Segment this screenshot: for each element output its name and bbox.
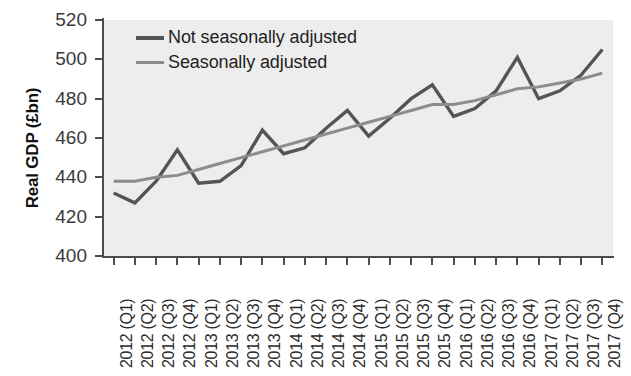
x-tick-label: 2016 (Q2) (479, 299, 497, 368)
y-tick-label: 420 (41, 207, 87, 226)
x-tick-mark (474, 258, 476, 265)
y-tick-mark (95, 19, 103, 21)
x-tick-label: 2014 (Q3) (330, 299, 348, 368)
y-tick-label: 400 (41, 246, 87, 265)
x-tick-mark (538, 258, 540, 265)
x-tick-label: 2017 (Q4) (606, 299, 624, 368)
x-tick-label: 2012 (Q3) (160, 299, 178, 368)
x-tick-label: 2012 (Q1) (118, 299, 136, 368)
legend-item: Seasonally adjusted (136, 50, 357, 75)
x-tick-label: 2013 (Q2) (224, 299, 242, 368)
legend-item: Not seasonally adjusted (136, 25, 357, 50)
y-tick-mark (95, 137, 103, 139)
chart-legend: Not seasonally adjustedSeasonally adjust… (136, 25, 357, 75)
y-tick-label: 460 (41, 128, 87, 147)
x-tick-mark (410, 258, 412, 265)
y-tick-mark (95, 255, 103, 257)
x-tick-mark (453, 258, 455, 265)
y-axis-tick-labels: 400420440460480500520 (41, 0, 87, 376)
x-tick-label: 2012 (Q4) (181, 299, 199, 368)
y-tick-mark (95, 216, 103, 218)
x-tick-mark (389, 258, 391, 265)
x-tick-mark (368, 258, 370, 265)
y-tick-mark (95, 58, 103, 60)
x-axis-tick-labels: 2012 (Q1)2012 (Q2)2012 (Q3)2012 (Q4)2013… (103, 258, 613, 376)
x-tick-mark (261, 258, 263, 265)
y-tick-label: 520 (41, 10, 87, 29)
x-tick-mark (601, 258, 603, 265)
x-tick-label: 2016 (Q1) (458, 299, 476, 368)
x-tick-label: 2013 (Q4) (266, 299, 284, 368)
x-tick-mark (346, 258, 348, 265)
x-tick-mark (198, 258, 200, 265)
x-tick-mark (283, 258, 285, 265)
y-tick-label: 480 (41, 89, 87, 108)
x-tick-mark (304, 258, 306, 265)
x-tick-label: 2014 (Q2) (309, 299, 327, 368)
x-tick-label: 2013 (Q1) (203, 299, 221, 368)
x-tick-label: 2015 (Q4) (436, 299, 454, 368)
y-axis-title: Real GDP (£bn) (23, 53, 43, 243)
x-tick-label: 2017 (Q3) (585, 299, 603, 368)
x-tick-label: 2015 (Q2) (394, 299, 412, 368)
x-tick-label: 2012 (Q2) (139, 299, 157, 368)
x-tick-mark (219, 258, 221, 265)
y-tick-label: 440 (41, 167, 87, 186)
y-tick-mark (95, 176, 103, 178)
x-tick-mark (240, 258, 242, 265)
x-tick-label: 2017 (Q1) (543, 299, 561, 368)
x-tick-label: 2017 (Q2) (564, 299, 582, 368)
x-tick-label: 2016 (Q4) (521, 299, 539, 368)
x-tick-mark (155, 258, 157, 265)
legend-swatch-icon (136, 61, 164, 65)
x-tick-mark (325, 258, 327, 265)
x-tick-mark (495, 258, 497, 265)
x-tick-mark (559, 258, 561, 265)
y-tick-label: 500 (41, 49, 87, 68)
legend-swatch-icon (136, 36, 164, 40)
x-tick-mark (113, 258, 115, 265)
y-tick-mark (95, 98, 103, 100)
gdp-line-chart: Real GDP (£bn) 400420440460480500520 Not… (0, 0, 631, 376)
x-tick-mark (176, 258, 178, 265)
x-tick-label: 2015 (Q1) (373, 299, 391, 368)
x-tick-label: 2014 (Q1) (288, 299, 306, 368)
legend-label: Seasonally adjusted (168, 52, 327, 73)
x-tick-mark (431, 258, 433, 265)
legend-label: Not seasonally adjusted (168, 27, 357, 48)
x-tick-label: 2016 (Q3) (500, 299, 518, 368)
x-tick-label: 2014 (Q4) (351, 299, 369, 368)
x-tick-label: 2013 (Q3) (245, 299, 263, 368)
x-tick-mark (580, 258, 582, 265)
x-tick-label: 2015 (Q3) (415, 299, 433, 368)
x-tick-mark (134, 258, 136, 265)
x-tick-mark (516, 258, 518, 265)
